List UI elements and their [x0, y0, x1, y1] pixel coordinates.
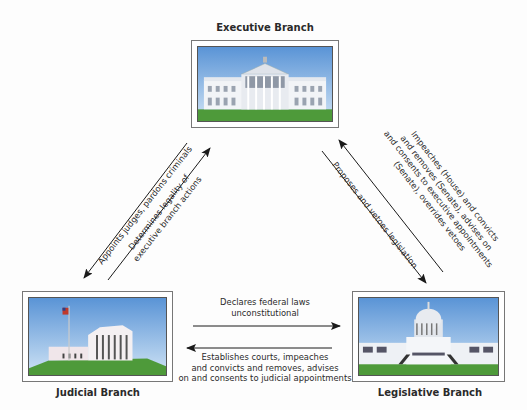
- label-line: on and consents to judicial appointments: [170, 373, 360, 384]
- label-declares-unconstitutional: Declares federal laws unconstitutional: [190, 297, 340, 318]
- label-line: unconstitutional: [190, 308, 340, 319]
- label-line: Establishes courts, impeaches: [170, 352, 360, 363]
- label-establishes-courts: Establishes courts, impeaches and convic…: [170, 352, 360, 384]
- label-line: and convicts and removes, advises: [170, 363, 360, 374]
- label-line: Declares federal laws: [190, 297, 340, 308]
